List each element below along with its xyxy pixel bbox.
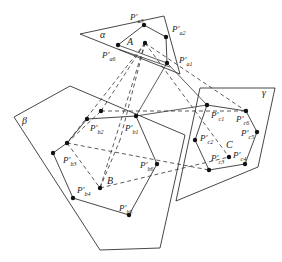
point-label-B: B xyxy=(107,175,113,186)
vertex-dot xyxy=(207,168,211,172)
vertex-label-c4: P′c4 xyxy=(232,150,246,162)
geometry-diagram: αβγABCP′a3P′a2P′a1P′a6P′b2P′b1P′b3P′b4P′… xyxy=(0,0,282,262)
vertex-dot xyxy=(99,109,103,113)
vertex-dot xyxy=(193,138,197,142)
vertex-label-c5: P′c5 xyxy=(240,128,254,140)
vertex-label-c2: P′c2 xyxy=(199,133,213,145)
vertex-dot xyxy=(165,61,169,65)
vertex-dot xyxy=(134,114,138,118)
vertex-label-a1: P′a1 xyxy=(178,55,192,67)
vertex-label-b5: P′b5 xyxy=(118,203,132,215)
polygon-a-closing-1 xyxy=(118,45,167,63)
polygon-a-closing-2 xyxy=(118,49,170,67)
point-A xyxy=(143,41,147,45)
solid-line-a1-b1 xyxy=(136,63,167,116)
solid-line-a1-c1 xyxy=(167,63,207,105)
vertex-dot xyxy=(155,162,159,166)
vertex-label-b2: P′b2 xyxy=(89,123,103,135)
vertex-dot xyxy=(116,43,120,47)
vertex-label-b3: P′b3 xyxy=(62,155,76,167)
point-label-A: A xyxy=(126,36,134,47)
vertex-dot xyxy=(205,103,209,107)
vertex-dot xyxy=(65,141,69,145)
plane-label-gamma: γ xyxy=(262,87,267,98)
point-C xyxy=(227,155,231,159)
vertex-dot xyxy=(164,35,168,39)
vertex-label-a6: P′a6 xyxy=(101,50,115,62)
plane-label-alpha: α xyxy=(100,29,106,40)
vertex-label-b4: P′b4 xyxy=(76,185,90,197)
point-label-C: C xyxy=(226,139,233,150)
solid-line-b1-c1 xyxy=(136,105,207,116)
vertex-label-b6: P′b6 xyxy=(139,160,153,172)
dashed-line-a-c2 xyxy=(145,43,246,111)
vertex-label-c1: P′c1 xyxy=(210,110,224,122)
vertex-label-b1: P′b1 xyxy=(124,123,138,135)
vertex-dot xyxy=(244,109,248,113)
vertex-dot xyxy=(243,162,247,166)
plane-label-beta: β xyxy=(21,115,27,126)
vertex-label-c6: P′c6 xyxy=(235,114,249,126)
vertex-label-c3: P′c3 xyxy=(210,153,224,165)
vertex-dot xyxy=(51,151,55,155)
point-B xyxy=(98,186,102,190)
vertex-label-a2: P′a2 xyxy=(171,24,185,36)
vertex-dot xyxy=(71,196,75,200)
vertex-dot xyxy=(85,117,89,121)
dashed-line-a-b4 xyxy=(120,43,145,140)
diagram-canvas: αβγABCP′a3P′a2P′a1P′a6P′b2P′b1P′b3P′b4P′… xyxy=(0,0,282,262)
vertex-dot xyxy=(255,130,259,134)
